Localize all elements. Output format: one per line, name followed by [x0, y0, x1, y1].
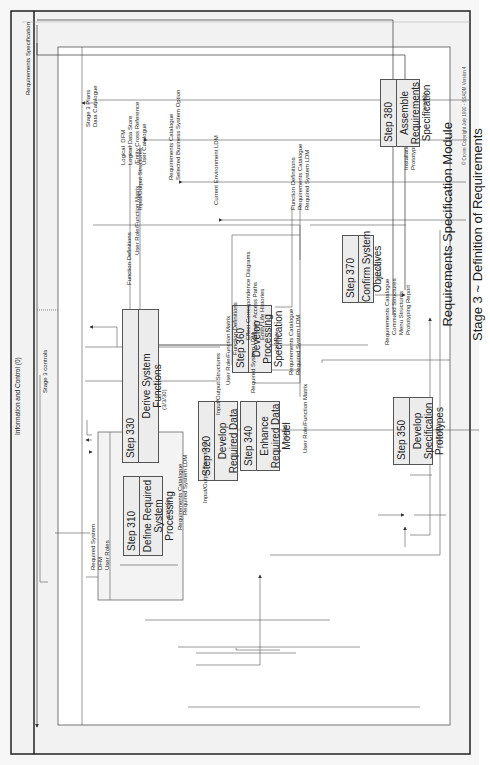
step-380-name: Assemble Requirements Specification: [397, 80, 432, 146]
step-330-name: Derive System Functions: [139, 310, 163, 462]
flow-310: Required System DFM User Roles: [90, 524, 111, 570]
output-label: Requirements Specification: [25, 22, 32, 95]
step-350[interactable]: Step 350 Develop Specification Prototype…: [393, 397, 433, 465]
step-310-number: Step 310: [124, 477, 140, 555]
step-370[interactable]: Step 370 Confirm System Objectives: [342, 235, 374, 303]
input-ldm: Current Environment LDM: [213, 135, 220, 205]
step-380-number: Step 380: [381, 80, 397, 146]
step-330[interactable]: Step 330 Derive System Functions: [122, 309, 159, 463]
flow-370: Function Definitions Requirements Catalo…: [290, 144, 311, 210]
flow-rc-360: Requirements Catalogue Required System L…: [288, 309, 302, 375]
flow-fd-330: Function Definitions: [126, 232, 133, 285]
step-380[interactable]: Step 380 Assemble Requirements Specifica…: [380, 79, 420, 147]
step-350-ref: (3/3/50): [435, 424, 441, 445]
flow-io-360: Input/Output Structures: [215, 353, 222, 415]
step-340[interactable]: Step 340 Enhance Required Data Model: [240, 401, 280, 471]
step-340-ref: (3/3/40): [282, 422, 288, 443]
flow-350: Requirements Catalogue Command Structure…: [384, 278, 412, 345]
step-370-ref: (3/3/70): [376, 259, 382, 280]
step-360-ref: (3/3/60): [274, 331, 280, 352]
flow-reqcat-330: Requirements Catalogue: [177, 464, 184, 530]
info-control-label: Information and Control (0): [14, 357, 21, 435]
flow-io-380: Input/Output Structures: [137, 148, 144, 210]
step-310[interactable]: Step 310 Define Required System Processi…: [123, 476, 163, 556]
flow-urfm-350: User Role/Function Matrix: [302, 384, 309, 453]
input-plans: Stage 3 Plans Data Catalogue: [85, 85, 99, 127]
stage-controls-label: Stage 3 controls: [42, 350, 49, 393]
step-340-number: Step 340: [241, 402, 257, 470]
input-reqcat: Requirements Catalogue Selected Business…: [168, 90, 182, 180]
step-380-ref: (3/3/80): [422, 92, 428, 113]
step-310-ref: (3/3/10): [165, 497, 171, 518]
flow-ecd: Effect Correspondence Diagrams Enquiry A…: [245, 251, 266, 340]
module-title-line2: Stage 3 ~ Definition of Requirements: [470, 128, 485, 341]
copyright: © Crown Copyright July 1990 - SSADM Vers…: [462, 66, 467, 165]
step-330-ref: (3/3/30): [161, 389, 167, 410]
flow-urfm-360: User Role/Function Matrix: [225, 316, 232, 385]
module-title: Requirements Specification Module Stage …: [425, 122, 490, 341]
module-title-line1: Requirements Specification Module: [440, 122, 455, 327]
step-350-number: Step 350: [394, 398, 410, 464]
flow-ldm-340: Required System LDM: [250, 333, 257, 393]
flow-fd-360: Function Definitions: [232, 302, 239, 355]
step-330-number: Step 330: [123, 310, 139, 462]
step-370-number: Step 370: [343, 236, 359, 302]
flow-io-340: Input/Output Structures: [202, 441, 209, 503]
